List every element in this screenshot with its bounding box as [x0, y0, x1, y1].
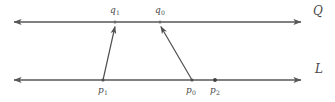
arrow-p0-to-q0 — [161, 27, 192, 81]
point-dot-q0 — [159, 21, 162, 24]
point-label-q1-base: q — [110, 5, 116, 15]
point-label-p2: p2 — [210, 86, 220, 95]
point-dot-q1 — [114, 21, 117, 24]
diagram-canvas — [0, 0, 335, 102]
arrow-p1-to-q1 — [103, 27, 115, 81]
point-label-p0-base: p — [186, 85, 192, 95]
point-label-p1-base: p — [98, 85, 104, 95]
point-label-p0-sub: 0 — [192, 89, 196, 96]
point-label-q0: q0 — [155, 6, 165, 15]
point-label-q0-sub: 0 — [161, 9, 165, 16]
point-label-p1-sub: 1 — [104, 89, 108, 96]
line-label-L-text: L — [315, 62, 323, 76]
point-label-p2-sub: 2 — [216, 89, 220, 96]
point-label-q0-base: q — [155, 5, 161, 15]
point-label-q1-sub: 1 — [116, 9, 120, 16]
line-label-Q-text: Q — [313, 4, 323, 18]
point-label-p1: p1 — [98, 86, 108, 95]
point-dot-p0 — [190, 78, 193, 81]
point-label-p0: p0 — [186, 86, 196, 95]
line-label-Q: Q — [313, 5, 323, 17]
geometry-diagram: q1 q0 p1 p0 p2 Q L — [0, 0, 335, 102]
point-dot-p1 — [101, 78, 104, 81]
point-dot-p2 — [213, 78, 217, 82]
line-label-L: L — [315, 63, 323, 75]
point-label-q1: q1 — [110, 6, 120, 15]
point-label-p2-base: p — [210, 85, 216, 95]
